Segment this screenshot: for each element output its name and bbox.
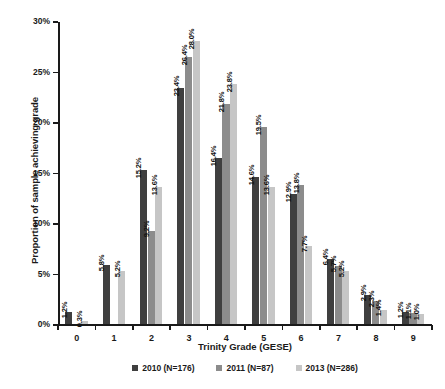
bar-value-label: 15.2% [134,158,143,179]
x-tick [207,325,209,330]
bar: 13.6% [155,187,162,324]
chart-legend: 2010 (N=176)2011 (N=87)2013 (N=286) [58,363,432,373]
y-tick: 20% [53,122,58,124]
legend-label: 2011 (N=87) [226,363,273,373]
x-tick [244,325,246,330]
legend-label: 2013 (N=286) [306,363,358,373]
bar: 5.2% [118,271,125,324]
bar: 5.8% [103,265,110,324]
y-tick: 15% [53,173,58,175]
y-tick-label: 20% [33,117,50,127]
bar-value-label: 23.8% [225,71,234,92]
bar: 13.6% [268,187,275,324]
legend-swatch-icon [216,365,222,371]
bar-value-label: 14.6% [247,164,256,185]
legend-label: 2010 (N=176) [142,363,194,373]
bar: 1.0% [417,314,424,324]
x-tick [394,325,396,330]
bar: 9.2% [148,231,155,324]
bar: 28.0% [193,41,200,324]
bar: 13.8% [297,185,304,324]
bar-value-label: 13.6% [150,174,159,195]
bar-value-label: 9.2% [142,221,151,238]
legend-swatch-icon [132,365,138,371]
y-tick: 30% [53,21,58,23]
bar-chart: Proportion of sample achieving grade 0%5… [0,0,445,389]
bar: 5.2% [342,271,349,324]
bar-value-label: 13.6% [262,174,271,195]
bar: 0.3% [81,321,88,324]
legend-item: 2013 (N=286) [296,363,358,373]
x-tick [282,325,284,330]
bar-value-label: 1.0% [412,304,421,321]
bar: 15.2% [140,170,147,324]
legend-swatch-icon [296,365,302,371]
x-tick [132,325,134,330]
bar-value-label: 5.2% [337,261,346,278]
bar-value-label: 7.7% [300,236,309,253]
y-tick: 25% [53,72,58,74]
bar-value-label: 19.5% [254,115,263,136]
x-axis-title: Trinity Grade (GESE) [58,341,432,352]
bar: 19.5% [260,127,267,324]
bar: 12.9% [290,194,297,324]
y-tick-label: 25% [33,67,50,77]
y-tick: 5% [53,274,58,276]
y-tick-label: 15% [33,168,50,178]
x-tick [95,325,97,330]
y-tick: 10% [53,223,58,225]
y-axis-line [58,22,60,325]
bar: 23.8% [230,84,237,324]
plot-area: 0%5%10%15%20%25%30% 0123456789 1.2%0.3%5… [58,22,432,325]
bar-value-label: 1.2% [60,302,69,319]
bar: 26.4% [185,57,192,324]
bar-value-label: 16.4% [209,146,218,167]
bar-value-label: 23.4% [172,75,181,96]
bar-value-label: 21.8% [217,92,226,113]
x-tick [431,325,433,330]
bar: 14.6% [252,177,259,324]
bar: 16.4% [215,158,222,324]
bar: 7.7% [305,246,312,324]
x-tick [356,325,358,330]
bar-value-label: 0.3% [75,311,84,328]
bar: 1.2% [65,312,72,324]
y-tick-label: 0% [38,319,50,329]
y-tick-label: 5% [38,269,50,279]
legend-item: 2010 (N=176) [132,363,194,373]
bar-value-label: 5.2% [113,261,122,278]
x-tick [169,325,171,330]
bar-value-label: 28.0% [187,29,196,50]
x-tick [57,325,59,330]
bar-value-label: 5.8% [97,255,106,272]
bar: 1.4% [380,310,387,324]
bar: 23.4% [177,88,184,324]
bar-value-label: 13.8% [292,172,301,193]
y-tick-label: 30% [33,16,50,26]
x-tick [319,325,321,330]
y-axis-title: Proportion of sample achieving grade [29,61,40,301]
y-tick-label: 10% [33,218,50,228]
bar-value-label: 1.4% [374,300,383,317]
legend-item: 2011 (N=87) [216,363,273,373]
bar: 21.8% [222,104,229,324]
